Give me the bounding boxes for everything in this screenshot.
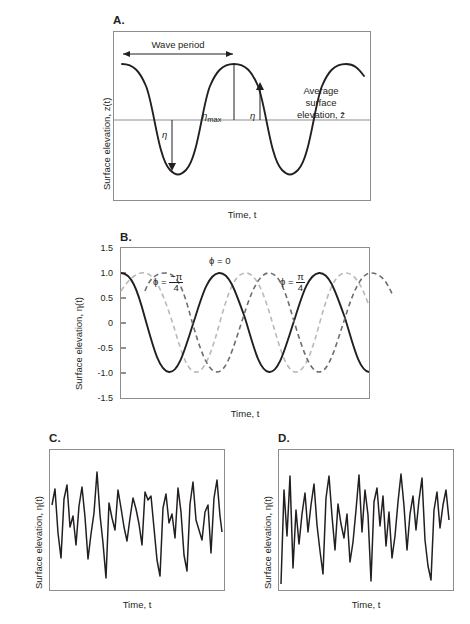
panel-d-wave-trace [281,474,449,584]
panel-d-x-axis-label: Time, t [278,599,454,610]
phase-positive-prefix: ϕ = [280,276,294,287]
panel-d-plot-svg [279,450,453,590]
panel-c-plot-box [49,449,225,591]
eta-lower-label: η [162,129,167,140]
eta-upper-label: η [250,110,255,121]
panel-c-y-axis-label: Surface elevation, η(t) [33,496,44,589]
panel-b-tick-2: 0.5 [83,293,113,303]
eta-down-arrow [168,120,176,171]
panel-b-tick-1: 1.0 [83,268,113,278]
average-line-1: Average [303,85,338,96]
phase-negative-prefix: ϕ = [153,276,167,287]
panel-b-plot-box: ϕ = 0 ϕ = −π 4 ϕ = π 4 [120,247,370,399]
average-line-3: elevation, z̄ [297,109,345,120]
panel-a-x-axis-label: Time, t [113,209,371,220]
panel-b-tick-0: 1.5 [83,243,113,253]
panel-b-tick-5: -1.0 [83,368,113,378]
phase-negative-denominator: 4 [169,283,183,293]
panel-b-plot-svg [121,248,369,398]
panel-b-tick-4: -0.5 [83,343,113,353]
panel-d-plot-box [278,449,454,591]
panel-d-letter: D. [278,432,290,444]
panel-a-plot-box: Wave period ηmax η η Average surface ele… [113,31,371,201]
panel-c-wave-trace [52,472,222,578]
wave-period-arrow [123,51,233,57]
phase-negative-fraction: −π 4 [169,272,183,293]
phase-zero-label: ϕ = 0 [209,255,230,266]
panel-c-x-axis-label: Time, t [49,599,225,610]
panel-d-y-axis-label: Surface elevation, η(t) [262,496,273,589]
panel-b-letter: B. [120,231,132,243]
panel-b-x-axis-label: Time, t [120,408,370,419]
phase-negative-label: ϕ = −π 4 [153,272,183,293]
panel-a-y-axis-label: Surface elevation, z(t) [101,98,112,190]
average-line-2: surface [305,97,336,108]
wave-period-label: Wave period [138,39,218,50]
phase-positive-label: ϕ = π 4 [280,272,305,293]
panel-b-tick-3: 0 [83,318,113,328]
panel-c-letter: C. [49,432,61,444]
panel-a-letter: A. [113,14,125,26]
panel-b-tick-6: -1.5 [83,393,113,403]
eta-max-label: ηmax [202,110,221,124]
panel-c-plot-svg [50,450,224,590]
phase-positive-fraction: π 4 [296,272,305,293]
phase-positive-denominator: 4 [296,283,305,293]
average-surface-elevation-label: Average surface elevation, z̄ [278,85,364,121]
wave-figure: A. Surface elevation, z(t) [0,0,470,624]
